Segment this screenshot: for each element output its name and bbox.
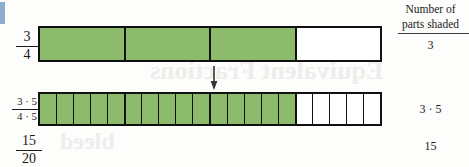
bar-cell-shaded xyxy=(108,94,124,124)
bar-part xyxy=(211,94,297,124)
bar-cell-shaded xyxy=(91,94,108,124)
bar-cell-shaded xyxy=(228,94,245,124)
bar-cell-shaded xyxy=(279,94,295,124)
downward-arrow-icon xyxy=(208,66,220,90)
page-edge-artifact xyxy=(0,2,5,24)
bar-part xyxy=(211,28,297,60)
bar-cell-unshaded xyxy=(313,94,330,124)
fraction-numerator: 15 xyxy=(16,134,42,151)
bar-cell-shaded xyxy=(262,94,279,124)
bar-cell-shaded xyxy=(211,28,295,60)
bar-cell-shaded xyxy=(40,28,124,60)
column-value-top: 3 xyxy=(392,38,469,53)
column-value-middle: 3 · 5 xyxy=(392,102,469,117)
column-header: Number of parts shaded xyxy=(392,2,469,31)
bar-model-three-fourths xyxy=(38,26,382,62)
bar-cell-shaded xyxy=(74,94,91,124)
fraction-diagram-page: Equivalent Fractions bleed 3 4 3 · 5 4 ·… xyxy=(0,0,469,167)
column-header-line-1: Number of xyxy=(392,2,469,17)
bleed-through-text-2: bleed xyxy=(60,128,115,155)
bar-cell-shaded xyxy=(40,94,57,124)
bar-cell-shaded xyxy=(193,94,209,124)
bar-cell-shaded xyxy=(57,94,74,124)
bar-cell-shaded xyxy=(126,28,210,60)
bar-part xyxy=(297,94,381,124)
bar-part xyxy=(297,28,381,60)
bar-cell-shaded xyxy=(126,94,143,124)
bar-cell-shaded xyxy=(176,94,193,124)
fraction-label-three-fourths: 3 4 xyxy=(16,30,38,62)
bar-cell-shaded xyxy=(245,94,262,124)
bar-part xyxy=(40,94,126,124)
column-header-rule xyxy=(398,33,469,34)
bar-part xyxy=(40,28,126,60)
bar-cell-unshaded xyxy=(364,94,380,124)
bar-model-fifteen-twentieths xyxy=(38,92,382,126)
bar-cell-unshaded xyxy=(347,94,364,124)
column-header-line-2: parts shaded xyxy=(392,17,469,32)
bar-part xyxy=(126,94,212,124)
bar-cell-shaded xyxy=(159,94,176,124)
bar-cell-unshaded xyxy=(330,94,347,124)
bar-cell-unshaded xyxy=(297,28,381,60)
bar-cell-shaded xyxy=(211,94,228,124)
bar-part xyxy=(126,28,212,60)
fraction-denominator: 20 xyxy=(16,151,42,167)
fraction-numerator: 3 xyxy=(16,30,38,47)
column-value-bottom: 15 xyxy=(392,139,469,154)
bar-cell-shaded xyxy=(142,94,159,124)
fraction-denominator: 4 xyxy=(16,47,38,63)
fraction-label-fifteen-twentieths: 15 20 xyxy=(16,134,42,166)
bar-cell-unshaded xyxy=(297,94,314,124)
